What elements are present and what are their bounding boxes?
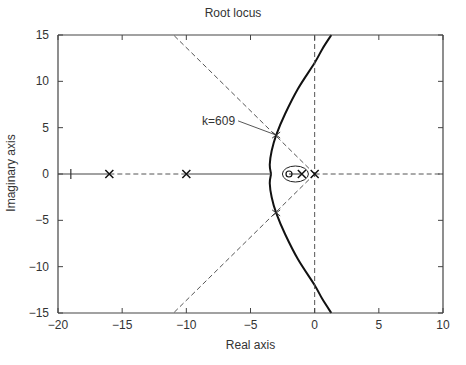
root-locus-plot: −20−15−10−50510151050−5−10−15 k=609	[0, 0, 466, 365]
gain-label: k=609	[202, 114, 235, 128]
x-tick-label: −20	[48, 318, 69, 332]
y-tick-label: −10	[29, 260, 50, 274]
x-tick-label: 0	[311, 318, 318, 332]
y-tick-label: 0	[42, 167, 49, 181]
y-tick-label: −5	[35, 213, 49, 227]
asymptote-upper	[174, 35, 315, 174]
x-tick-label: −5	[244, 318, 258, 332]
locus-upper-branch	[270, 35, 332, 174]
asymptote-lower	[174, 174, 315, 313]
plot-axes: −20−15−10−50510151050−5−10−15	[29, 28, 450, 332]
y-tick-label: 15	[36, 28, 50, 42]
x-tick-label: 10	[436, 318, 450, 332]
x-tick-label: −10	[176, 318, 197, 332]
annotation-leader-line	[238, 121, 276, 135]
y-tick-label: −15	[29, 306, 50, 320]
locus-lower-branch	[270, 174, 332, 313]
x-tick-label: −15	[112, 318, 133, 332]
plot-series	[58, 35, 443, 313]
y-tick-label: 10	[36, 74, 50, 88]
x-tick-label: 5	[375, 318, 382, 332]
y-tick-label: 5	[42, 121, 49, 135]
